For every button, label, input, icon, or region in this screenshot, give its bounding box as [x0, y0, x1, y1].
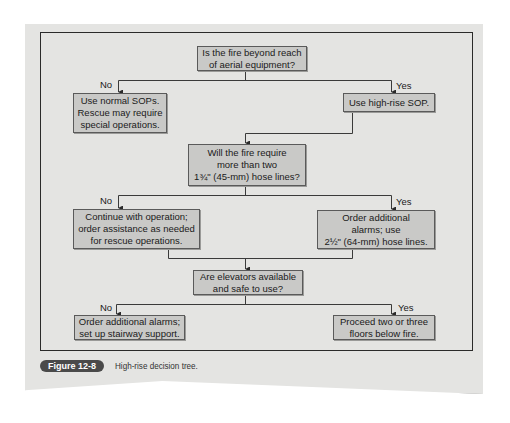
decision-hose-lines: Will the fire require more than two 1¾" … [188, 144, 306, 186]
decision-aerial-reach: Is the fire beyond reach of aerial equip… [197, 46, 307, 71]
action-normal-sops: Use normal SOPs. Rescue may require spec… [73, 93, 167, 133]
decision-elevators: Are elevators available and safe to use? [193, 270, 303, 295]
figure-number-badge: Figure 12-8 [40, 360, 104, 372]
action-high-rise-sop: Use high-rise SOP. [343, 93, 435, 112]
branch-label-no: No [100, 79, 112, 90]
branch-label-no: No [100, 302, 112, 313]
figure-caption: High-rise decision tree. [115, 360, 198, 372]
action-stairway-support: Order additional alarms; set up stairway… [74, 315, 185, 340]
action-continue-operation: Continue with operation; order assistanc… [73, 209, 200, 249]
action-proceed-below-fire: Proceed two or three floors below fire. [333, 315, 435, 340]
branch-label-yes: Yes [396, 196, 412, 207]
branch-label-yes: Yes [398, 302, 414, 313]
branch-label-yes: Yes [396, 80, 412, 91]
action-additional-alarms-hose: Order additional alarms; use 2½" (64-mm)… [317, 210, 435, 249]
branch-label-no: No [100, 195, 112, 206]
